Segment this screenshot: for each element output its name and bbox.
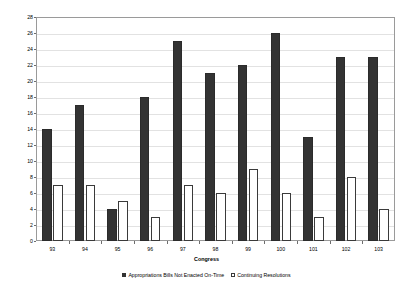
bar [347, 177, 357, 241]
y-axis-tick-label: 4 [7, 206, 33, 212]
x-axis-tick-label: 99 [245, 246, 251, 252]
bar [271, 33, 281, 241]
x-axis-tick-label: 93 [49, 246, 55, 252]
bar [107, 209, 117, 241]
bar [238, 65, 248, 241]
y-axis-tick-label: 22 [7, 62, 33, 68]
bar [86, 185, 96, 241]
x-axis-tick-mark [167, 241, 168, 244]
bar [118, 201, 128, 241]
x-axis-title: Congress [0, 256, 413, 262]
y-axis-tick-label: 18 [7, 94, 33, 100]
bar [368, 57, 378, 241]
x-axis-tick-label: 102 [342, 246, 351, 252]
bar [75, 105, 85, 241]
x-axis-tick-mark [101, 241, 102, 244]
bar [53, 185, 63, 241]
bar-group [101, 17, 134, 241]
y-axis-tick-label: 8 [7, 174, 33, 180]
bar-group [134, 17, 167, 241]
x-axis-tick-label: 101 [309, 246, 318, 252]
bar [184, 185, 194, 241]
bar-group [36, 17, 69, 241]
x-axis-tick-mark [232, 241, 233, 244]
y-axis-tick-label: 26 [7, 30, 33, 36]
bar-group [167, 17, 200, 241]
y-axis-tick-label: 14 [7, 126, 33, 132]
x-axis-tick-mark [199, 241, 200, 244]
y-axis-tick-label: 0 [7, 238, 33, 244]
bar-group [199, 17, 232, 241]
y-axis-tick-label: 2 [7, 222, 33, 228]
x-axis-tick-mark [69, 241, 70, 244]
bar [42, 129, 52, 241]
bars-layer [36, 17, 395, 241]
x-axis-tick-label: 96 [147, 246, 153, 252]
y-axis-tick-label: 28 [7, 14, 33, 20]
bar [140, 97, 150, 241]
x-axis-tick-label: 100 [276, 246, 285, 252]
bar-group [69, 17, 102, 241]
y-axis-tick-label: 6 [7, 190, 33, 196]
x-axis-tick-label: 98 [213, 246, 219, 252]
x-axis-tick-mark [297, 241, 298, 244]
y-axis-tick-label: 12 [7, 142, 33, 148]
legend-item: Appropriations Bills Not Enacted On-Time [122, 272, 224, 278]
y-axis-tick-label: 20 [7, 78, 33, 84]
bar [151, 217, 161, 241]
x-axis-tick-label: 95 [115, 246, 121, 252]
bar [379, 209, 389, 241]
bar [173, 41, 183, 241]
bar-chart: Number of Bills 024681012141618202224262… [0, 0, 413, 291]
bar-group [232, 17, 265, 241]
x-axis-tick-label: 94 [82, 246, 88, 252]
legend-swatch-icon [231, 273, 235, 277]
y-axis-tick-label: 10 [7, 158, 33, 164]
bar-group [264, 17, 297, 241]
x-axis-tick-label: 103 [374, 246, 383, 252]
legend-item: Continuing Resolutions [231, 272, 290, 278]
bar [282, 193, 292, 241]
legend-label: Continuing Resolutions [237, 272, 290, 278]
chart-legend: Appropriations Bills Not Enacted On-Time… [0, 272, 413, 278]
x-axis-tick-label: 97 [180, 246, 186, 252]
y-axis-tick-mark [34, 241, 36, 242]
bar [216, 193, 226, 241]
bar-group [330, 17, 363, 241]
x-axis-tick-mark [264, 241, 265, 244]
x-axis-tick-mark [134, 241, 135, 244]
legend-label: Appropriations Bills Not Enacted On-Time [128, 272, 224, 278]
y-axis-tick-label: 16 [7, 110, 33, 116]
bar [303, 137, 313, 241]
bar [314, 217, 324, 241]
bar-group [297, 17, 330, 241]
bar [205, 73, 215, 241]
bar-group [362, 17, 395, 241]
x-axis-tick-mark [362, 241, 363, 244]
y-axis-tick-label: 24 [7, 46, 33, 52]
bar [249, 169, 259, 241]
x-axis-tick-mark [330, 241, 331, 244]
legend-swatch-icon [122, 273, 126, 277]
bar [336, 57, 346, 241]
